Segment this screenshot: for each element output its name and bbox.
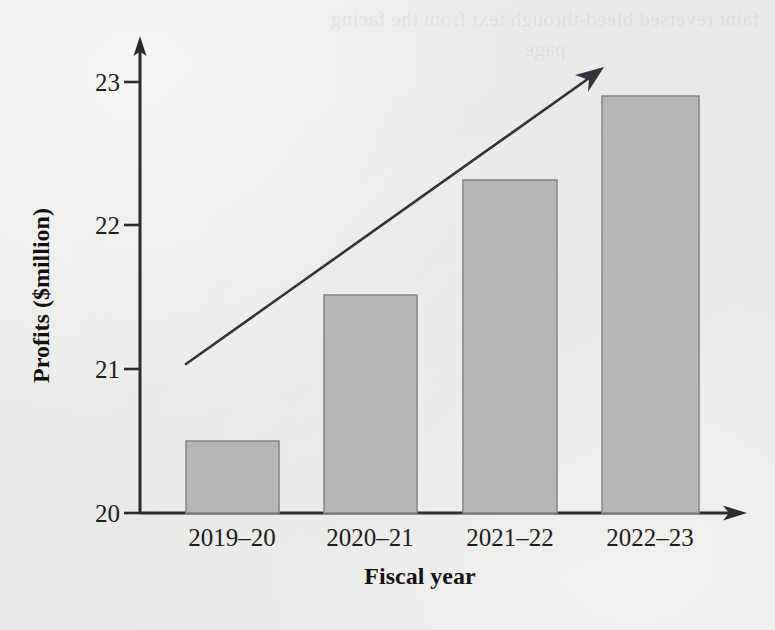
bar-2019-20[interactable]	[186, 441, 279, 513]
y-tick-marks-group	[124, 82, 140, 513]
bar-2022-23[interactable]	[602, 96, 699, 513]
x-axis-title: Fiscal year	[320, 563, 520, 590]
y-tick-label-22: 22	[60, 213, 120, 238]
y-tick-label-21: 21	[60, 357, 120, 382]
y-axis-title: Profits ($million)	[28, 161, 55, 431]
scanned-page-background: faint reversed bleed-through text from t…	[0, 0, 775, 630]
trend-arrow-head	[575, 67, 604, 92]
bar-2020-21[interactable]	[324, 295, 417, 513]
y-tick-label-23: 23	[60, 70, 120, 95]
bar-2021-22[interactable]	[463, 180, 557, 513]
bars-group	[186, 96, 699, 513]
y-tick-label-20: 20	[60, 501, 120, 526]
x-tick-label-2022-23: 2022–23	[565, 525, 735, 550]
